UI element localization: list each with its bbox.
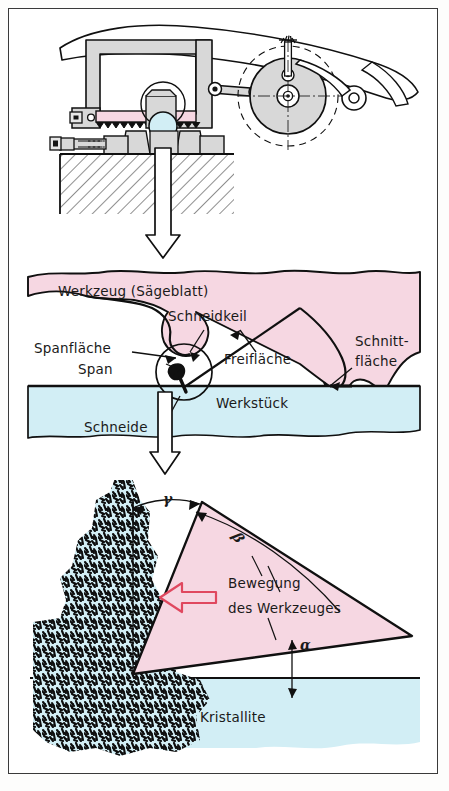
wedge-angles-group [25,470,420,770]
label-crystallites: Kristallite [200,710,266,725]
label-cutting-wedge: Schneidkeil [168,309,247,324]
label-flank-face: Freifläche [224,352,291,367]
label-cutting-edge: Schneide [84,420,148,435]
angle-symbol-alpha: α [300,638,311,653]
label-rake-face: Spanfläche [34,341,111,356]
label-cut-surface-line2: fläche [355,354,397,369]
label-workpiece: Werkstück [216,396,288,411]
label-tool: Werkzeug (Sägeblatt) [58,284,208,299]
label-motion-line1: Bewegung [228,576,301,591]
label-motion-line2: des Werkzeuges [228,601,341,616]
saw-machine-group [50,25,418,214]
technical-figure: Werkzeug (Sägeblatt) Schneidkeil Spanflä… [0,0,449,791]
angle-symbol-gamma: γ [163,492,172,507]
label-cut-surface-line1: Schnitt- [355,334,409,349]
label-chip: Span [78,362,113,377]
